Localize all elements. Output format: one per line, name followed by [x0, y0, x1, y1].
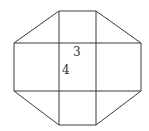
dimension-label-3: 3	[73, 45, 81, 59]
octagon-outline	[14, 11, 141, 125]
octagon-grid-diagram: 3 4	[0, 0, 149, 131]
dimension-label-4: 4	[62, 63, 70, 77]
